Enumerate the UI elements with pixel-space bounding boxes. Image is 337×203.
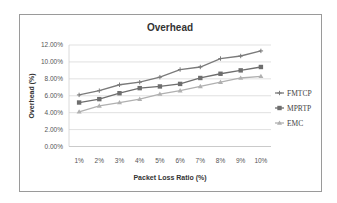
y-tick-label: 0.00% — [45, 143, 64, 150]
data-point — [158, 84, 162, 88]
series-fmtcp — [77, 49, 263, 97]
x-tick-label: 2% — [95, 157, 105, 164]
x-tick-label: 8% — [216, 157, 226, 164]
x-tick-label: 9% — [236, 157, 246, 164]
data-point — [239, 68, 243, 72]
data-point — [259, 49, 263, 53]
x-axis-label: Packet Loss Ratio (%) — [133, 174, 206, 182]
y-tick-label: 10.00% — [41, 58, 63, 65]
y-tick-labels: 0.00%2.00%4.00%6.00%8.00%10.00%12.00% — [41, 41, 63, 150]
data-point — [97, 97, 101, 101]
series-group — [77, 49, 264, 114]
x-tick-labels: 1%2%3%4%5%6%7%8%9%10% — [74, 157, 267, 164]
data-point — [97, 88, 101, 92]
data-point — [77, 93, 81, 97]
data-point — [178, 67, 182, 71]
legend-item-fmtcp: FMTCP — [275, 89, 312, 98]
x-tick-label: 7% — [196, 157, 206, 164]
x-tick-label: 6% — [175, 157, 185, 164]
x-tick-label: 3% — [115, 157, 125, 164]
y-tick-label: 4.00% — [45, 109, 64, 116]
legend-label: FMTCP — [287, 89, 312, 98]
series-line-emc — [79, 76, 261, 112]
data-point — [218, 72, 222, 76]
data-point — [218, 56, 222, 60]
y-tick-label: 2.00% — [45, 126, 64, 133]
data-point — [77, 100, 81, 104]
x-tick-label: 10% — [254, 157, 267, 164]
data-point — [117, 83, 121, 87]
legend-item-mprtp: MPRTP — [275, 104, 311, 113]
legend-item-emc: EMC — [275, 119, 303, 128]
data-point — [138, 86, 142, 90]
series-mprtp — [77, 65, 263, 105]
legend: FMTCPMPRTPEMC — [275, 89, 312, 128]
x-tick-label: 1% — [74, 157, 84, 164]
x-tick-label: 4% — [135, 157, 145, 164]
data-point — [138, 80, 142, 84]
y-tick-label: 8.00% — [45, 75, 64, 82]
y-tick-label: 6.00% — [45, 92, 64, 99]
chart-title: Overhead — [147, 22, 193, 33]
data-point — [198, 65, 202, 69]
legend-marker-icon — [277, 106, 281, 110]
line-chart: Overhead 0.00%2.00%4.00%6.00%8.00%10.00%… — [0, 0, 337, 203]
legend-marker-icon — [277, 91, 281, 95]
legend-label: MPRTP — [287, 104, 311, 113]
data-point — [198, 76, 202, 80]
legend-label: EMC — [287, 119, 303, 128]
data-point — [178, 82, 182, 86]
series-line-fmtcp — [79, 51, 261, 95]
data-point — [259, 65, 263, 69]
data-point — [239, 54, 243, 58]
gridlines — [69, 45, 271, 147]
y-tick-label: 12.00% — [41, 41, 63, 48]
series-emc — [77, 74, 264, 114]
y-axis-label: Overhead (%) — [28, 73, 36, 118]
series-line-mprtp — [79, 67, 261, 103]
x-tick-label: 5% — [155, 157, 165, 164]
data-point — [117, 91, 121, 95]
